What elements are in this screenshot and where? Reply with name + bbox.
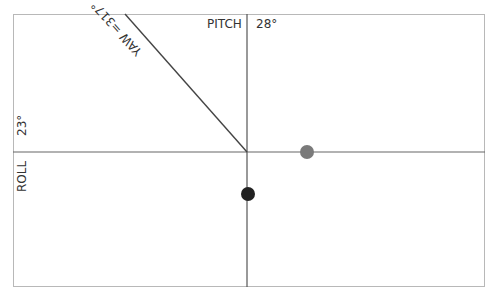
pitch-value: 28° xyxy=(256,18,277,30)
black-marker-dot xyxy=(241,187,255,201)
yaw-line xyxy=(125,14,247,152)
roll-label: ROLL xyxy=(16,161,28,192)
gray-marker-dot xyxy=(300,145,314,159)
pitch-label: PITCH xyxy=(207,18,242,30)
attitude-diagram xyxy=(0,0,498,301)
roll-value: 23° xyxy=(16,115,28,136)
